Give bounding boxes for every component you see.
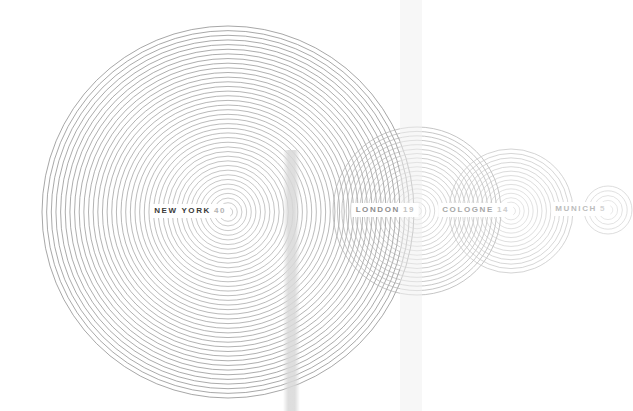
city-name-london: LONDON <box>356 205 400 214</box>
concentric-rings-layer <box>0 0 633 411</box>
city-label-cologne: COLOGNE14 <box>438 203 513 217</box>
vertical-smudge <box>283 150 300 411</box>
ripple-chart-canvas: NEW YORK40 LONDON19 COLOGNE14 MUNICH5 <box>0 0 633 411</box>
city-label-new-york: NEW YORK40 <box>150 204 230 218</box>
city-name-cologne: COLOGNE <box>442 205 494 214</box>
city-count-munich: 5 <box>600 204 606 213</box>
city-name-munich: MUNICH <box>555 204 597 213</box>
city-label-munich: MUNICH5 <box>551 202 610 216</box>
city-count-london: 19 <box>403 205 415 214</box>
city-name-new-york: NEW YORK <box>154 206 211 215</box>
city-count-cologne: 14 <box>497 205 509 214</box>
city-count-new-york: 40 <box>214 206 226 215</box>
city-label-london: LONDON19 <box>352 203 419 217</box>
